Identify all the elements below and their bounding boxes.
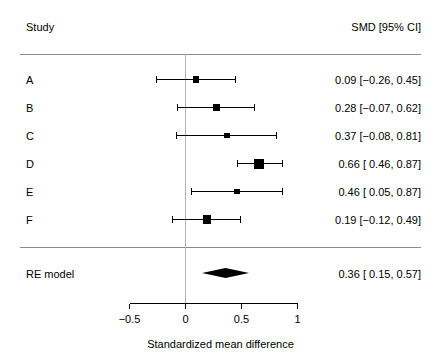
x-axis-tick-label: −0.5 — [100, 313, 160, 325]
x-axis-line — [130, 303, 298, 304]
study-label: E — [26, 187, 33, 198]
confidence-interval-cap — [282, 160, 283, 167]
summary-estimate: 0.36 [ 0.15, 0.57] — [338, 269, 421, 280]
study-label: F — [26, 215, 33, 226]
confidence-interval-cap — [235, 76, 236, 83]
study-estimate-text: 0.09 [−0.26, 0.45] — [335, 75, 421, 86]
reference-line — [185, 54, 186, 303]
study-estimate-marker — [193, 76, 199, 82]
confidence-interval-cap — [172, 216, 173, 223]
study-estimate-text: 0.66 [ 0.46, 0.87] — [338, 159, 421, 170]
x-axis-tick-label: 0 — [156, 313, 216, 325]
confidence-interval-cap — [282, 188, 283, 195]
study-estimate-marker — [234, 189, 240, 195]
study-estimate-marker — [254, 159, 264, 169]
column-header-estimate: SMD [95% CI] — [351, 22, 421, 33]
study-label: C — [26, 131, 34, 142]
study-label: A — [26, 75, 33, 86]
confidence-interval-cap — [254, 104, 255, 111]
study-estimate-text: 0.19 [−0.12, 0.49] — [335, 215, 421, 226]
x-axis-tick — [185, 304, 186, 309]
x-axis-title: Standardized mean difference — [0, 338, 441, 350]
header-divider — [20, 54, 421, 55]
study-estimate-text: 0.46 [ 0.05, 0.87] — [338, 187, 421, 198]
summary-diamond-shape — [201, 267, 251, 279]
summary-label: RE model — [26, 269, 74, 280]
x-axis-tick-label: 1 — [268, 313, 328, 325]
summary-divider — [20, 247, 421, 248]
study-label: D — [26, 159, 34, 170]
study-estimate-marker — [224, 133, 229, 138]
forest-plot: Study SMD [95% CI] A0.09 [−0.26, 0.45]B0… — [0, 0, 441, 364]
study-estimate-marker — [203, 215, 211, 223]
x-axis-tick — [241, 304, 242, 309]
study-estimate-text: 0.28 [−0.07, 0.62] — [335, 103, 421, 114]
confidence-interval-cap — [237, 160, 238, 167]
column-header-study: Study — [26, 22, 54, 33]
confidence-interval-cap — [176, 132, 177, 139]
confidence-interval-cap — [276, 132, 277, 139]
x-axis-tick — [129, 304, 130, 309]
x-axis-tick-label: 0.5 — [212, 313, 272, 325]
confidence-interval-cap — [191, 188, 192, 195]
study-estimate-text: 0.37 [−0.08, 0.81] — [335, 131, 421, 142]
confidence-interval-cap — [177, 104, 178, 111]
confidence-interval-cap — [240, 216, 241, 223]
study-estimate-marker — [213, 104, 220, 111]
x-axis-tick — [297, 304, 298, 309]
study-label: B — [26, 103, 33, 114]
confidence-interval-cap — [156, 76, 157, 83]
